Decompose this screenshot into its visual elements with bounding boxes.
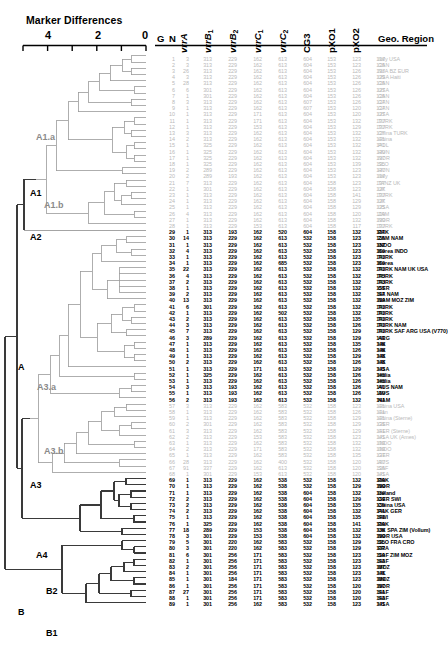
cell-n: 1 bbox=[177, 601, 189, 607]
cluster-label-a4: A4 bbox=[36, 550, 48, 560]
cell-cg3: 158 bbox=[320, 601, 336, 607]
cluster-label-a2: A2 bbox=[30, 232, 42, 242]
cluster-label-b2: B2 bbox=[46, 586, 58, 596]
cluster-label-a1b: A1.b bbox=[44, 200, 64, 210]
cluster-label-a: A bbox=[18, 362, 25, 372]
cell-vrra: 301 bbox=[196, 601, 212, 607]
column-header-g: G bbox=[157, 33, 164, 44]
cell-vrrb2: 162 bbox=[246, 601, 262, 607]
dendrogram-tree bbox=[0, 53, 160, 663]
column-header-geo-region: Geo. Region bbox=[378, 33, 434, 44]
column-header-vrrc2: vrrC2 bbox=[277, 30, 288, 53]
cell-pxo1: 123 bbox=[345, 601, 361, 607]
column-header-vrrc1: vrrC1 bbox=[252, 30, 263, 53]
cell-vrrb1: 256 bbox=[221, 601, 237, 607]
cell-vrrc1: 583 bbox=[271, 601, 287, 607]
cluster-label-a3: A3 bbox=[30, 480, 42, 490]
cluster-label-a1: A1 bbox=[30, 188, 42, 198]
column-header-vrrb1: vrrB1 bbox=[202, 30, 213, 53]
column-header-pxo1: pXO1 bbox=[326, 28, 337, 53]
column-header-n: N bbox=[169, 33, 176, 44]
cell-g: 89 bbox=[165, 601, 175, 607]
column-header-cg3: CG3 bbox=[301, 33, 312, 53]
cluster-label-a3b: A3.b bbox=[44, 446, 64, 456]
cluster-label-a3a: A3.a bbox=[37, 382, 56, 392]
column-header-vrrb2: vrrB2 bbox=[227, 30, 238, 53]
cluster-label-b: B bbox=[18, 607, 25, 617]
column-header-vrra: vrrA bbox=[178, 33, 189, 53]
cell-geo-region: USA bbox=[378, 601, 430, 607]
column-header-pxo2: pXO2 bbox=[350, 28, 361, 53]
cluster-label-b1: B1 bbox=[46, 628, 58, 638]
cluster-label-a1a: A1.a bbox=[36, 132, 55, 142]
cell-vrrc2: 532 bbox=[296, 601, 312, 607]
